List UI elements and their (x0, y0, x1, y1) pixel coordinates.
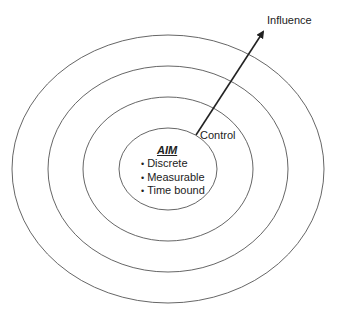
aim-title: AIM (157, 144, 177, 156)
aim-bullet-list: Discrete Measurable Time bound (141, 157, 205, 198)
bullet-item: Measurable (141, 171, 205, 185)
influence-label: Influence (267, 14, 312, 26)
bullet-item: Discrete (141, 157, 205, 171)
control-label: Control (200, 129, 235, 141)
bullet-item: Time bound (141, 184, 205, 198)
